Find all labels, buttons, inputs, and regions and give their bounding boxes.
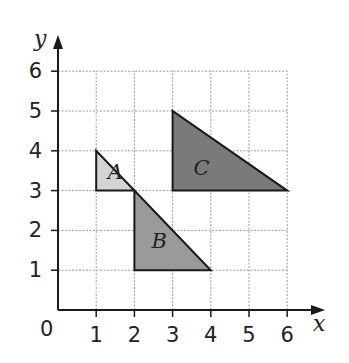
y-axis-arrow-icon xyxy=(53,35,63,49)
triangle-label-b: B xyxy=(151,229,167,253)
y-tick-label: 4 xyxy=(29,139,42,163)
y-tick-label: 3 xyxy=(29,179,42,203)
coordinate-diagram: ABC 1234561234560xy xyxy=(0,0,349,363)
x-tick-label: 6 xyxy=(281,323,294,347)
x-tick-label: 3 xyxy=(166,323,179,347)
y-tick-label: 6 xyxy=(29,59,42,83)
y-tick-label: 5 xyxy=(29,99,42,123)
y-axis-label: y xyxy=(33,26,47,51)
x-tick-label: 1 xyxy=(90,323,103,347)
triangle-label-c: C xyxy=(194,156,210,180)
x-tick-label: 4 xyxy=(204,323,217,347)
triangle-c xyxy=(173,111,288,191)
x-tick-label: 2 xyxy=(128,323,141,347)
x-axis-label: x xyxy=(313,311,326,336)
grid-plot: ABC 1234561234560xy xyxy=(0,0,349,363)
y-tick-label: 1 xyxy=(29,258,42,282)
triangles: ABC xyxy=(96,111,287,270)
x-tick-label: 5 xyxy=(242,323,255,347)
triangle-label-a: A xyxy=(106,160,123,184)
y-tick-label: 2 xyxy=(29,218,42,242)
origin-label: 0 xyxy=(40,317,53,341)
